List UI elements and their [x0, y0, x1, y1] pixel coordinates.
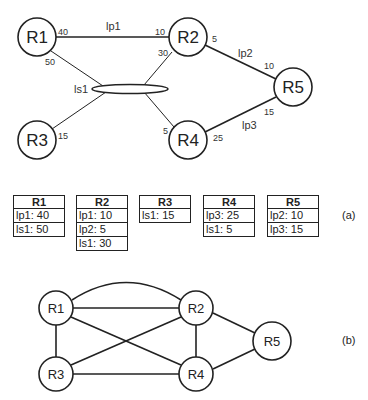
cost-r4-ls1: 5 — [163, 126, 168, 136]
lan-label-ls1: ls1 — [74, 83, 88, 95]
link-r3-ls1 — [52, 92, 106, 129]
table-row: lp3: 25 — [204, 209, 254, 223]
router-r5-label: R5 — [282, 78, 304, 97]
table-header: R5 — [268, 196, 318, 209]
router-r4-label: R4 — [177, 131, 199, 150]
node-r4-label: R4 — [188, 367, 205, 382]
cost-r2-lp2: 5 — [212, 34, 217, 44]
link-r4-ls1 — [144, 92, 174, 127]
lan-ls1 — [92, 85, 168, 94]
edge-r2-r5 — [213, 313, 255, 333]
link-label-lp2: lp2 — [238, 47, 253, 59]
table-header: R1 — [14, 196, 64, 209]
cost-r4-lp3: 25 — [213, 133, 223, 143]
cost-r2-lp1: 10 — [155, 27, 165, 37]
node-r1-label: R1 — [48, 301, 65, 316]
table-row: lp3: 15 — [268, 223, 318, 236]
table-row: lp2: 5 — [77, 223, 127, 237]
table-header: R2 — [77, 196, 127, 209]
cost-r1-ls1: 50 — [45, 57, 55, 67]
table-header: R3 — [140, 196, 190, 209]
table-row: lp1: 10 — [77, 209, 127, 223]
table-r2: R2 lp1: 10 lp2: 5 ls1: 30 — [76, 195, 128, 251]
table-row: lp1: 40 — [14, 209, 64, 223]
router-r2-label: R2 — [177, 28, 199, 47]
node-r3-label: R3 — [48, 367, 65, 382]
table-row: ls1: 30 — [77, 237, 127, 250]
cost-r2-ls1: 30 — [158, 48, 168, 58]
node-r5-label: R5 — [264, 334, 281, 349]
table-r3: R3 ls1: 15 — [139, 195, 191, 223]
table-row: ls1: 5 — [204, 223, 254, 236]
caption-b: (b) — [342, 334, 355, 346]
edge-r4-r5 — [213, 349, 255, 369]
table-row: ls1: 50 — [14, 223, 64, 236]
router-r3-label: R3 — [26, 131, 48, 150]
link-label-lp1: lp1 — [106, 20, 121, 32]
cost-r5-lp2: 10 — [264, 61, 274, 71]
cost-r3-ls1: 15 — [58, 131, 68, 141]
cost-r1-lp1: 40 — [58, 27, 68, 37]
link-label-lp3: lp3 — [242, 119, 257, 131]
table-row: ls1: 15 — [140, 209, 190, 222]
router-r1-label: R1 — [26, 28, 48, 47]
caption-a: (a) — [342, 209, 355, 221]
table-r1: R1 lp1: 40 ls1: 50 — [13, 195, 65, 237]
table-r4: R4 lp3: 25 ls1: 5 — [203, 195, 255, 237]
cost-r5-lp3: 15 — [264, 107, 274, 117]
table-row: lp2: 10 — [268, 209, 318, 223]
node-r2-label: R2 — [188, 301, 205, 316]
table-r5: R5 lp2: 10 lp3: 15 — [267, 195, 319, 237]
table-header: R4 — [204, 196, 254, 209]
edge-r1-r2-arc — [72, 283, 181, 301]
